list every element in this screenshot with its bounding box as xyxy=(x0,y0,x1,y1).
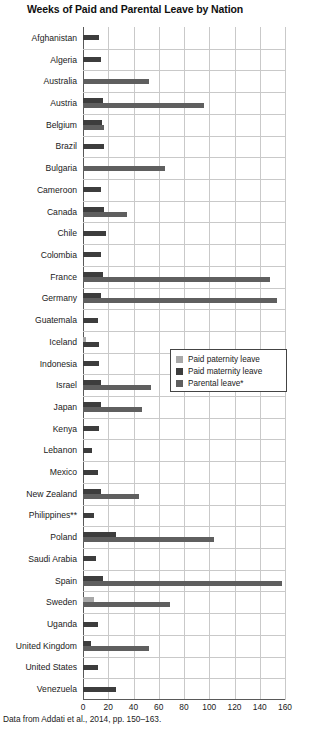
bar-parental xyxy=(83,212,127,217)
category-label: Austria xyxy=(0,98,77,108)
legend-label-maternity: Paid maternity leave xyxy=(188,367,262,376)
legend-item-maternity: Paid maternity leave xyxy=(176,366,281,377)
category-label: United Kingdom xyxy=(0,641,77,651)
category-label: New Zealand xyxy=(0,489,77,499)
category-label: Saudi Arabia xyxy=(0,554,77,564)
bar-maternity xyxy=(83,361,99,366)
category-label: Iceland xyxy=(0,337,77,347)
chart-legend: Paid paternity leave Paid maternity leav… xyxy=(170,349,287,392)
category-label: Germany xyxy=(0,293,77,303)
legend-item-parental: Parental leave* xyxy=(176,378,281,389)
x-tick-60: 60 xyxy=(154,702,163,712)
category-label: Brazil xyxy=(0,141,77,151)
x-tick-120: 120 xyxy=(228,702,242,712)
category-label: Cameroon xyxy=(0,185,77,195)
category-label: Venezuela xyxy=(0,684,77,694)
bar-maternity xyxy=(83,687,116,692)
bar-maternity xyxy=(83,187,101,192)
bar-parental xyxy=(83,537,214,542)
x-tick-20: 20 xyxy=(104,702,113,712)
bar-parental xyxy=(83,298,277,303)
category-label: Japan xyxy=(0,402,77,412)
category-label: Lebanon xyxy=(0,445,77,455)
bar-parental xyxy=(83,494,139,499)
chart-title: Weeks of Paid and Parental Leave by Nati… xyxy=(27,3,243,15)
x-tick-40: 40 xyxy=(129,702,138,712)
bar-maternity xyxy=(83,318,98,323)
bar-parental xyxy=(83,79,149,84)
x-tick-140: 140 xyxy=(253,702,267,712)
bar-parental xyxy=(83,125,104,130)
bar-parental xyxy=(83,166,165,171)
bar-maternity xyxy=(83,144,104,149)
bar-maternity xyxy=(83,231,106,236)
bar-maternity xyxy=(83,35,99,40)
plot-baseline xyxy=(83,699,285,700)
x-tick-160: 160 xyxy=(278,702,292,712)
bar-parental xyxy=(83,407,142,412)
category-label: Belgium xyxy=(0,120,77,130)
category-label: Guatemala xyxy=(0,315,77,325)
bar-maternity xyxy=(83,448,92,453)
legend-label-parental: Parental leave* xyxy=(188,379,244,388)
bar-parental xyxy=(83,602,170,607)
x-tick-100: 100 xyxy=(202,702,216,712)
source-note: Data from Addati et al., 2014, pp. 150–1… xyxy=(3,714,161,724)
category-label: Israel xyxy=(0,380,77,390)
bar-parental xyxy=(83,581,282,586)
x-tick-0: 0 xyxy=(81,702,86,712)
legend-swatch-icon-parental xyxy=(176,380,183,387)
category-label: Bulgaria xyxy=(0,163,77,173)
legend-label-paternity: Paid paternity leave xyxy=(188,355,260,364)
bar-maternity xyxy=(83,665,98,670)
category-label: United States xyxy=(0,662,77,672)
category-label: Uganda xyxy=(0,619,77,629)
bar-maternity xyxy=(83,556,96,561)
bar-maternity xyxy=(83,470,98,475)
category-label: Australia xyxy=(0,76,77,86)
category-label: Kenya xyxy=(0,424,77,434)
bar-maternity xyxy=(83,513,94,518)
bar-maternity xyxy=(83,622,98,627)
legend-swatch-icon-paternity xyxy=(176,356,183,363)
bar-maternity xyxy=(83,57,101,62)
category-label: Afghanistan xyxy=(0,33,77,43)
category-label: Chile xyxy=(0,228,77,238)
category-label: Sweden xyxy=(0,597,77,607)
legend-swatch-icon-maternity xyxy=(176,368,183,375)
x-tick-80: 80 xyxy=(179,702,188,712)
bar-parental xyxy=(83,385,151,390)
bar-parental xyxy=(83,277,270,282)
bar-parental xyxy=(83,103,204,108)
category-label: Colombia xyxy=(0,250,77,260)
chart-figure: Weeks of Paid and Parental Leave by Nati… xyxy=(0,0,311,729)
bar-parental xyxy=(83,646,149,651)
category-label: Algeria xyxy=(0,55,77,65)
category-label: Canada xyxy=(0,207,77,217)
category-label: Indonesia xyxy=(0,359,77,369)
category-label: Poland xyxy=(0,532,77,542)
category-label: Mexico xyxy=(0,467,77,477)
category-label: Philippines** xyxy=(0,510,77,520)
bar-maternity xyxy=(83,252,101,257)
bar-maternity xyxy=(83,426,99,431)
bar-maternity xyxy=(83,342,99,347)
category-label: France xyxy=(0,272,77,282)
category-label: Spain xyxy=(0,576,77,586)
legend-item-paternity: Paid paternity leave xyxy=(176,354,281,365)
